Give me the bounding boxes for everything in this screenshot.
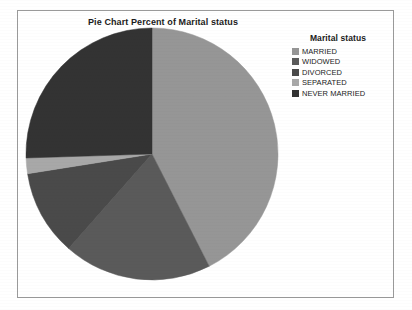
pie-slice-never-married[interactable] (26, 28, 152, 158)
legend-title: Marital status (292, 33, 384, 43)
legend-item-widowed[interactable]: WIDOWED (292, 57, 384, 67)
legend-swatch-icon (292, 48, 299, 55)
legend-swatch-icon (292, 90, 299, 97)
legend-item-separated[interactable]: SEPARATED (292, 78, 384, 88)
legend-swatch-icon (292, 79, 299, 86)
legend-item-label: MARRIED (302, 47, 337, 56)
page-bleed-text-top (8, 14, 13, 24)
legend-swatch-icon (292, 58, 299, 65)
pie-chart (25, 27, 279, 281)
legend-item-divorced[interactable]: DIVORCED (292, 67, 384, 77)
chart-legend: Marital status MARRIEDWIDOWEDDIVORCEDSEP… (292, 33, 384, 99)
legend-item-label: NEVER MARRIED (302, 89, 365, 98)
chart-title: Pie Chart Percent of Marital status (18, 17, 308, 27)
legend-items: MARRIEDWIDOWEDDIVORCEDSEPARATEDNEVER MAR… (292, 46, 384, 98)
legend-item-label: SEPARATED (302, 78, 347, 87)
legend-item-label: DIVORCED (302, 68, 342, 77)
legend-item-label: WIDOWED (302, 57, 340, 66)
legend-item-married[interactable]: MARRIED (292, 46, 384, 56)
legend-item-never-married[interactable]: NEVER MARRIED (292, 88, 384, 98)
chart-frame: Pie Chart Percent of Marital status Mari… (17, 10, 394, 298)
legend-swatch-icon (292, 69, 299, 76)
pie-chart-svg (25, 27, 279, 281)
